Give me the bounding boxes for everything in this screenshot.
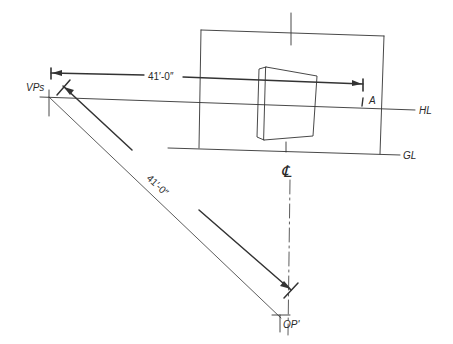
- point-a-label: A: [368, 95, 376, 106]
- ground-line: [168, 148, 400, 155]
- horizon-line: [40, 97, 415, 110]
- op-label: OP': [283, 319, 300, 330]
- point-a-tick: [362, 98, 363, 106]
- diagonal-dimension: [57, 80, 298, 298]
- diagonal-dimension-label: 41′-0″: [145, 172, 171, 198]
- vps-label: VPs: [26, 82, 44, 93]
- picture-plane-box: [199, 30, 384, 154]
- perspective-diagram: VPs HL GL A OP' ℄ 41′-0″ 41′-0″: [0, 0, 453, 344]
- centerline: [288, 180, 290, 335]
- hl-label: HL: [419, 105, 432, 116]
- object-block: [257, 67, 317, 140]
- sight-line: [49, 97, 281, 318]
- horizontal-dimension-label: 41′-0″: [148, 71, 174, 82]
- centerline-symbol: ℄: [281, 163, 292, 180]
- gl-label: GL: [403, 150, 416, 161]
